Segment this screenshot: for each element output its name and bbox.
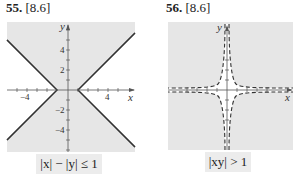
graph-55-x-tick-neg4: −4 [20, 92, 30, 102]
graph-55-x-tick-4: 4 [105, 92, 110, 102]
graph-56-y-label: y [216, 21, 222, 33]
graph-55-y-label: y [59, 20, 65, 32]
graph-55: y x −4 4 4 2 −2 −4 [6, 20, 136, 152]
problem-56-caption: |xy| > 1 [205, 152, 251, 172]
graph-55-y-tick-2: 2 [60, 65, 65, 75]
graph-55-x-label: x [127, 91, 133, 103]
graph-56: y x [168, 21, 293, 150]
graph-56-x-label: x [284, 91, 290, 103]
problem-55-caption: |x| − |y| ≤ 1 [36, 154, 102, 174]
graph-55-y-tick-neg2: −2 [55, 105, 65, 115]
graph-55-y-tick-neg4: −4 [55, 125, 65, 135]
graph-55-y-tick-4: 4 [60, 45, 65, 55]
